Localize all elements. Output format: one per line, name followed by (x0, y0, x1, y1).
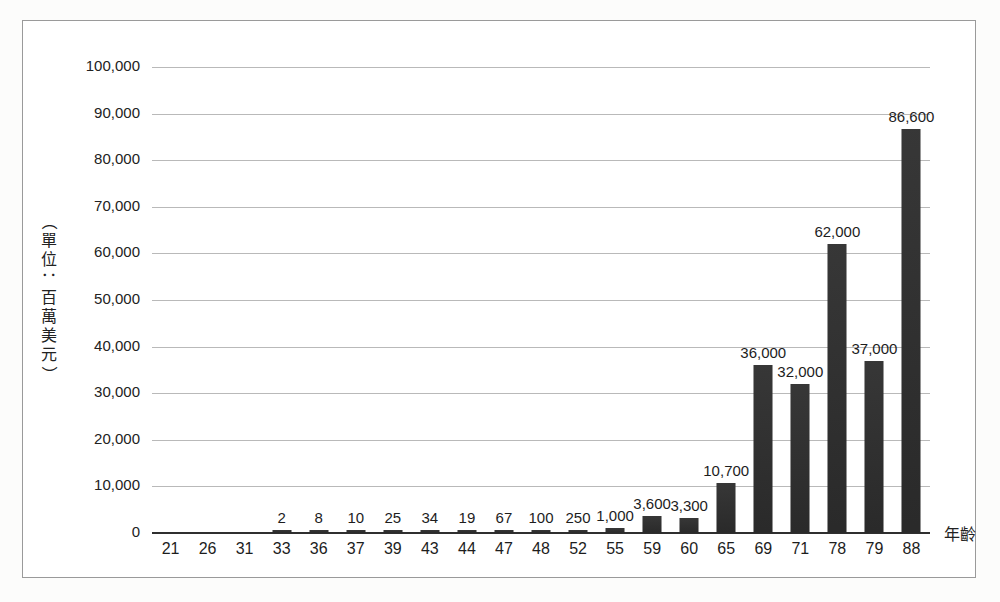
y-axis-title-char: 美 (36, 326, 62, 345)
x-tick-label: 21 (152, 540, 189, 558)
x-tick-label: 55 (597, 540, 634, 558)
x-tick-label: 36 (300, 540, 337, 558)
y-axis-title-char: ： (40, 266, 59, 292)
y-tick-label: 70,000 (0, 197, 140, 214)
x-tick-label: 60 (671, 540, 708, 558)
chart-page: 010,00020,00030,00040,00050,00060,00070,… (0, 0, 1000, 602)
x-tick-label: 31 (226, 540, 263, 558)
x-tick-label: 47 (485, 540, 522, 558)
y-tick-label: 80,000 (0, 150, 140, 167)
y-tick-label: 100,000 (0, 57, 140, 74)
x-tick-label: 59 (634, 540, 671, 558)
y-tick-label: 20,000 (0, 430, 140, 447)
x-tick-label: 37 (337, 540, 374, 558)
y-axis-tick-labels: 010,00020,00030,00040,00050,00060,00070,… (0, 0, 140, 602)
y-axis-title-char: ） (40, 361, 59, 387)
x-tick-label: 69 (745, 540, 782, 558)
x-tick-label: 39 (374, 540, 411, 558)
x-tick-label: 78 (819, 540, 856, 558)
x-tick-label: 48 (522, 540, 559, 558)
x-axis-title: 年齡 (944, 521, 976, 545)
x-tick-label: 88 (893, 540, 930, 558)
y-tick-label: 30,000 (0, 383, 140, 400)
y-axis-title: （單位：百萬美元） (36, 212, 62, 383)
x-tick-label: 79 (856, 540, 893, 558)
y-tick-label: 90,000 (0, 104, 140, 121)
x-tick-label: 26 (189, 540, 226, 558)
y-axis-title-char: 萬 (36, 307, 62, 326)
x-tick-label: 52 (560, 540, 597, 558)
y-tick-label: 0 (0, 523, 140, 540)
y-tick-label: 50,000 (0, 290, 140, 307)
y-axis-title-char: （ (40, 209, 59, 235)
y-tick-label: 40,000 (0, 337, 140, 354)
x-tick-label: 44 (448, 540, 485, 558)
x-tick-label: 43 (411, 540, 448, 558)
x-tick-label: 65 (708, 540, 745, 558)
x-tick-label: 33 (263, 540, 300, 558)
x-tick-label: 71 (782, 540, 819, 558)
x-axis-tick-labels: 2126313336373943444748525559606569717879… (152, 0, 930, 602)
y-tick-label: 60,000 (0, 243, 140, 260)
y-tick-label: 10,000 (0, 476, 140, 493)
